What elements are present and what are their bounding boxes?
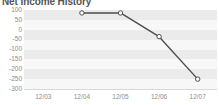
y-axis: 100500-50-100-150-200-250-300 <box>0 10 22 89</box>
x-axis-tick-label: 12/03 <box>35 93 51 100</box>
data-point-marker[interactable] <box>196 77 200 81</box>
x-axis-tick-label: 12/04 <box>74 93 90 100</box>
y-axis-tick-label: -250 <box>0 76 22 83</box>
y-axis-tick-label: -200 <box>0 66 22 73</box>
data-point-marker[interactable] <box>157 34 161 38</box>
net-income-history-chart: Net Income History 100500-50-100-150-200… <box>0 0 219 105</box>
y-axis-tick-label: 100 <box>0 7 22 14</box>
data-point-marker[interactable] <box>80 11 84 15</box>
x-axis: 12/0312/0412/0512/0612/07 <box>24 93 217 103</box>
y-axis-tick-label: 0 <box>0 27 22 34</box>
plot-series-svg <box>24 10 217 89</box>
plot-area <box>24 10 217 89</box>
x-axis-tick-label: 12/07 <box>190 93 206 100</box>
y-axis-tick-label: -150 <box>0 56 22 63</box>
x-axis-tick-label: 12/05 <box>112 93 128 100</box>
x-axis-tick-label: 12/06 <box>151 93 167 100</box>
series-markers-net-income <box>80 11 200 82</box>
y-axis-tick-label: 50 <box>0 17 22 24</box>
series-line-net-income <box>82 13 198 79</box>
y-axis-tick-label: -300 <box>0 86 22 93</box>
x-axis-rule <box>24 89 217 90</box>
y-axis-tick-label: -50 <box>0 36 22 43</box>
y-axis-tick-label: -100 <box>0 46 22 53</box>
data-point-marker[interactable] <box>118 11 122 15</box>
